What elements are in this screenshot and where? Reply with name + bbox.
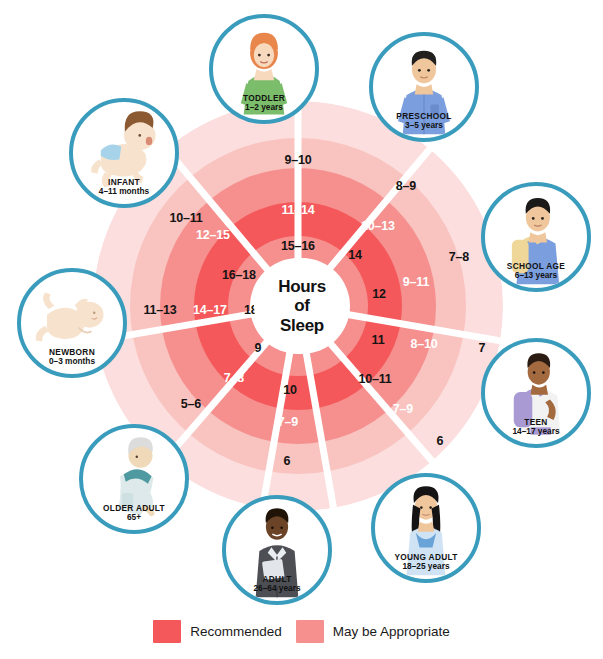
value-school-age-recommended: 9–11 [403,276,429,289]
value-older-adult-recommended: 7–8 [224,372,244,385]
bubble-age-older-adult: 65+ [83,513,185,523]
value-preschool-outer: 8–9 [396,180,416,193]
bubble-teen[interactable]: Teen 14–17 years [481,338,591,448]
legend-label-may-be-appropriate: May be Appropriate [333,624,450,639]
legend-label-recommended: Recommended [190,624,282,639]
bubble-caption: Infant 4–11 months [73,178,175,204]
value-adult-recommended: 7–9 [278,416,298,429]
value-toddler-inner: 15–16 [281,240,315,253]
value-adult-inner: 10 [283,384,297,397]
legend: Recommended May be Appropriate [0,612,603,650]
legend-swatch-may-be-appropriate [296,620,324,643]
bubble-infant[interactable]: Infant 4–11 months [69,98,179,208]
bubble-caption: Adult 26–64 years [226,575,328,601]
sleep-chart-infographic: 9–10 11–14 15–16 8–9 10–13 14 7–8 9–11 1… [0,0,603,659]
value-school-age-inner: 12 [372,288,386,301]
bubble-age-infant: 4–11 months [73,187,175,197]
bubble-age-newborn: 0–3 months [21,357,123,367]
value-newborn-outer: 11–13 [143,304,176,317]
center-line-2: of [278,296,326,315]
value-young-adult-outer: 6 [437,435,444,448]
bubble-school-age[interactable]: School Age 6–13 years [481,182,591,292]
value-teen-recommended: 8–10 [410,338,437,351]
value-newborn-recommended: 14–17 [193,304,227,317]
value-teen-inner: 11 [372,334,385,347]
bubble-caption: Young Adult 18–25 years [375,553,477,579]
bubble-young-adult[interactable]: Young Adult 18–25 years [371,473,481,583]
value-preschool-recommended: 10–13 [361,220,395,233]
bubble-caption: Preschool 3–5 years [373,112,475,138]
value-infant-recommended: 12–15 [196,229,230,242]
value-older-adult-inner: 9 [255,342,262,355]
bubble-age-preschool: 3–5 years [373,121,475,131]
bubble-age-toddler: 1–2 years [213,103,315,113]
bubble-caption: School Age 6–13 years [485,262,587,288]
center-line-3: Sleep [278,316,326,335]
bubble-age-adult: 26–64 years [226,584,328,594]
value-school-age-outer: 7–8 [449,251,469,264]
center-title: Hours of Sleep [278,277,326,334]
value-toddler-outer: 9–10 [284,154,311,167]
bubble-caption: Newborn 0–3 months [21,348,123,374]
value-infant-outer: 10–11 [169,212,202,225]
value-preschool-inner: 14 [348,249,362,262]
bubble-age-school-age: 6–13 years [485,271,587,281]
value-older-adult-outer: 5–6 [181,398,201,411]
bubble-age-teen: 14–17 years [485,427,587,437]
legend-item-may-be-appropriate: May be Appropriate [296,620,450,643]
bubble-caption: Older Adult 65+ [83,504,185,530]
bubble-adult[interactable]: Adult 26–64 years [222,495,332,605]
wheel-center: Hours of Sleep [254,258,350,354]
bubble-preschool[interactable]: Preschool 3–5 years [369,32,479,142]
value-infant-inner: 16–18 [222,269,256,282]
legend-item-recommended: Recommended [153,620,282,643]
value-young-adult-recommended: 7–9 [393,403,413,416]
bubble-age-young-adult: 18–25 years [375,562,477,572]
value-toddler-recommended: 11–14 [281,204,314,217]
legend-swatch-recommended [153,620,181,643]
bubble-caption: Teen 14–17 years [485,418,587,444]
bubble-older-adult[interactable]: Older Adult 65+ [79,424,189,534]
value-young-adult-inner: 10–11 [358,373,391,386]
center-line-1: Hours [278,277,326,296]
value-adult-outer: 6 [284,455,291,468]
bubble-newborn[interactable]: Newborn 0–3 months [17,268,127,378]
bubble-toddler[interactable]: Toddler 1–2 years [209,14,319,124]
bubble-caption: Toddler 1–2 years [213,94,315,120]
